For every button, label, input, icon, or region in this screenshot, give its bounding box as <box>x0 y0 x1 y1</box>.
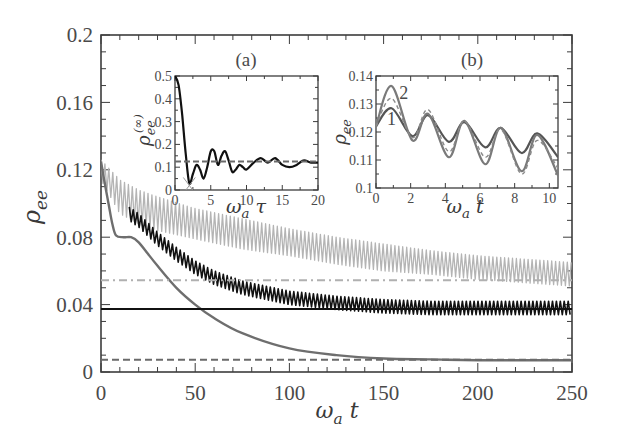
main-ytick-label: 0.04 <box>56 293 93 317</box>
inset_a-ytick-label: 0.4 <box>155 92 173 107</box>
inset-b-curve-label-2: 2 <box>399 83 408 103</box>
main-y-axis-label: ρee <box>18 190 51 225</box>
main-ytick-label: 0 <box>83 360 94 384</box>
inset_a-xtick-label: 5 <box>207 193 214 208</box>
main-x-axis-label: ωa t <box>316 398 359 428</box>
main-xtick-label: 100 <box>274 381 306 405</box>
main-xtick-label: 200 <box>462 381 494 405</box>
inset_b-xtick-label: 10 <box>542 191 556 206</box>
main-ytick-label: 0.2 <box>67 23 93 47</box>
inset_b-xtick-label: 8 <box>511 191 518 206</box>
main-ytick-label: 0.16 <box>56 91 93 115</box>
inset_a-xtick-label: 15 <box>275 193 289 208</box>
inset_a-frame <box>175 76 318 190</box>
inset_a-ytick-label: 0.2 <box>155 137 173 152</box>
main-xtick-label: 250 <box>556 381 588 405</box>
inset_b-ytick-label: 0.14 <box>349 69 374 84</box>
main-xtick-label: 0 <box>96 381 107 405</box>
main-ytick-label: 0.08 <box>56 226 93 250</box>
inset_a-ytick-label: 0 <box>165 183 172 198</box>
panel-b-label: (b) <box>461 49 483 71</box>
inset_a-xtick-label: 20 <box>311 193 325 208</box>
inset-b-curve-label-1: 1 <box>387 109 396 129</box>
inset_a-ytick-label: 0.1 <box>155 160 173 175</box>
main-xtick-label: 50 <box>185 381 206 405</box>
main-ytick-label: 0.12 <box>56 158 93 182</box>
inset_a-xtick-label: 0 <box>172 193 179 208</box>
inset_b-ytick-label: 0.11 <box>349 153 373 168</box>
inset_b-xtick-label: 2 <box>407 191 414 206</box>
figure: 05010015020025000.040.080.120.160.2ωa tρ… <box>0 0 618 437</box>
inset_a-ytick-label: 0.5 <box>155 69 173 84</box>
inset_b-ytick-label: 0.13 <box>349 97 374 112</box>
main-xtick-label: 150 <box>368 381 400 405</box>
panel-a-label: (a) <box>235 49 256 71</box>
inset_b-ytick-label: 0.1 <box>356 181 374 196</box>
inset_b-xtick-label: 0 <box>373 191 380 206</box>
